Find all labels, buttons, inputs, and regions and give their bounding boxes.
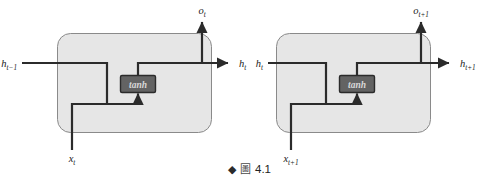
tanh-label-t: tanh xyxy=(129,80,147,90)
label-hidden-out-t: ht xyxy=(239,58,247,72)
label-hidden-in-t: ht−1 xyxy=(1,58,17,72)
caption-figure-number: 4.1 xyxy=(255,164,271,176)
caption-figure-word: 圖 xyxy=(240,164,251,175)
rnn-cell-t-plus-1: tanh ht ht+1 ot+1 xt+1 xyxy=(256,5,476,167)
rnn-cell-t: tanh ht−1 ht ot xt xyxy=(1,5,247,167)
label-hidden-out-t-plus-1: ht+1 xyxy=(460,58,476,72)
label-hidden-in-t-plus-1: ht xyxy=(256,58,264,72)
figure-caption: ◆ 圖 4.1 xyxy=(0,164,499,176)
figure-canvas: tanh ht−1 ht ot xt tanh ht ht+1 ot+1 xyxy=(0,0,499,191)
label-output-t: ot xyxy=(198,5,206,19)
caption-diamond-icon: ◆ xyxy=(228,164,236,175)
tanh-label-t-plus-1: tanh xyxy=(348,80,366,90)
label-output-t-plus-1: ot+1 xyxy=(413,5,429,19)
